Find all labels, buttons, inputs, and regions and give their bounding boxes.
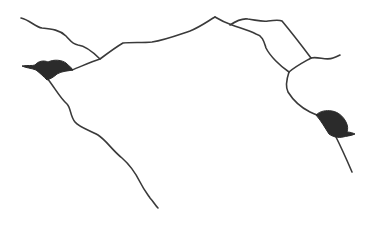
right-blob-tail-line	[335, 135, 352, 172]
left-descent-line	[47, 78, 158, 208]
line-sketch	[0, 0, 378, 225]
right-blob	[316, 111, 355, 138]
right-descent-line	[286, 72, 320, 116]
ridge-right-lower-line	[215, 17, 289, 72]
sketch-lines	[21, 17, 352, 208]
left-blob-to-ridge-line	[72, 17, 215, 70]
upper-left-branch-line	[21, 18, 100, 59]
sketch-canvas	[0, 0, 378, 225]
left-blob	[22, 60, 73, 80]
sketch-blobs	[22, 60, 355, 137]
cross-connector-line	[289, 58, 311, 72]
ridge-right-upper-line	[230, 19, 311, 58]
upper-right-spur-line	[311, 55, 340, 59]
